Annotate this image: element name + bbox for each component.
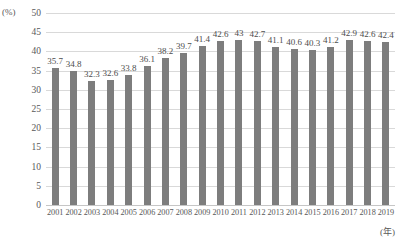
x-axis-tick-label: 2002 <box>64 208 82 217</box>
bar-slot: 42.9 <box>340 13 358 205</box>
bar-value-label: 34.8 <box>66 59 82 69</box>
y-axis-tick-label: 5 <box>36 181 41 191</box>
y-axis-tick-label: 35 <box>32 66 42 76</box>
x-axis-tick-label: 2014 <box>285 208 303 217</box>
bar-slot: 32.3 <box>83 13 101 205</box>
bar-slot: 41.4 <box>193 13 211 205</box>
bar-slot: 33.8 <box>120 13 138 205</box>
bar-slot: 42.6 <box>211 13 229 205</box>
bar-slot: 41.1 <box>267 13 285 205</box>
x-axis-tick-label: 2004 <box>101 208 119 217</box>
bar-series: 35.734.832.332.633.836.138.239.741.442.6… <box>46 13 395 205</box>
bar: 41.2 <box>327 47 334 205</box>
bar: 35.7 <box>52 68 59 205</box>
x-axis-tick-label: 2010 <box>211 208 229 217</box>
bar: 40.6 <box>291 49 298 205</box>
x-axis-tick-label: 2015 <box>303 208 321 217</box>
bar-slot: 38.2 <box>156 13 174 205</box>
x-axis-tick-label: 2009 <box>193 208 211 217</box>
bar-value-label: 40.6 <box>286 37 302 47</box>
bar-value-label: 32.3 <box>84 69 100 79</box>
y-axis-tick-label: 0 <box>36 200 41 210</box>
bar: 36.1 <box>144 66 151 205</box>
bar: 39.7 <box>180 53 187 205</box>
y-axis-tick-label: 25 <box>32 104 42 114</box>
x-axis-tick-label: 2003 <box>83 208 101 217</box>
bar-value-label: 41.4 <box>194 34 210 44</box>
bar-slot: 43 <box>230 13 248 205</box>
bar: 40.3 <box>309 50 316 205</box>
bar: 42.4 <box>382 42 389 205</box>
bar: 42.9 <box>346 40 353 205</box>
bar-value-label: 43 <box>234 28 243 38</box>
bar: 43 <box>235 40 242 205</box>
x-axis-tick-label: 2017 <box>340 208 358 217</box>
bar-slot: 40.6 <box>285 13 303 205</box>
bar: 41.4 <box>199 46 206 205</box>
bar-value-label: 42.6 <box>213 29 229 39</box>
y-axis-tick-label: 20 <box>32 123 42 133</box>
bar-value-label: 39.7 <box>176 41 192 51</box>
bar-value-label: 40.3 <box>305 38 321 48</box>
bar-value-label: 32.6 <box>102 68 118 78</box>
bar-value-label: 42.9 <box>341 28 357 38</box>
x-axis-tick-label: 2019 <box>377 208 395 217</box>
x-axis-tick-label: 2012 <box>248 208 266 217</box>
bar-slot: 42.4 <box>377 13 395 205</box>
bar: 32.3 <box>88 81 95 205</box>
bar-slot: 42.6 <box>358 13 376 205</box>
y-axis-tick-label: 50 <box>32 8 42 18</box>
x-axis-tick-label: 2005 <box>120 208 138 217</box>
bar: 32.6 <box>107 80 114 205</box>
plot-area: 50454035302520151050 35.734.832.332.633.… <box>46 13 395 205</box>
bar: 42.6 <box>217 41 224 205</box>
bar-slot: 32.6 <box>101 13 119 205</box>
y-axis-tick-label: 30 <box>32 85 42 95</box>
y-axis-tick-label: 40 <box>32 46 42 56</box>
y-axis-tick-label: 15 <box>32 142 42 152</box>
bar: 34.8 <box>70 71 77 205</box>
bar: 42.7 <box>254 41 261 205</box>
bar-value-label: 36.1 <box>139 54 155 64</box>
y-axis-unit-label: (%) <box>2 7 16 17</box>
x-axis-tick-label: 2007 <box>156 208 174 217</box>
x-axis-tick-label: 2008 <box>175 208 193 217</box>
x-axis-tick-label: 2018 <box>358 208 376 217</box>
bar-value-label: 41.2 <box>323 35 339 45</box>
bar: 42.6 <box>364 41 371 205</box>
y-axis-tick-label: 45 <box>32 27 42 37</box>
bar-value-label: 42.6 <box>360 29 376 39</box>
bar-value-label: 33.8 <box>121 63 137 73</box>
bar-chart: (%) 50454035302520151050 35.734.832.332.… <box>0 0 401 240</box>
bar-value-label: 42.4 <box>378 30 394 40</box>
x-axis-tick-labels: 2001200220032004200520062007200820092010… <box>46 208 395 217</box>
bar: 38.2 <box>162 58 169 205</box>
bar-value-label: 35.7 <box>47 56 63 66</box>
bar: 41.1 <box>272 47 279 205</box>
bar-value-label: 38.2 <box>158 46 174 56</box>
x-axis-unit-label: (年) <box>380 225 395 238</box>
bar-slot: 36.1 <box>138 13 156 205</box>
bar-slot: 39.7 <box>175 13 193 205</box>
bar-slot: 42.7 <box>248 13 266 205</box>
y-axis-tick-label: 10 <box>32 162 42 172</box>
bar: 33.8 <box>125 75 132 205</box>
bar-slot: 34.8 <box>64 13 82 205</box>
x-axis-tick-label: 2001 <box>46 208 64 217</box>
x-axis-tick-label: 2011 <box>230 208 248 217</box>
bar-slot: 40.3 <box>303 13 321 205</box>
x-axis-tick-label: 2006 <box>138 208 156 217</box>
x-axis-tick-label: 2016 <box>322 208 340 217</box>
x-axis-line: 0 <box>46 205 395 206</box>
x-axis-tick-label: 2013 <box>267 208 285 217</box>
bar-slot: 41.2 <box>322 13 340 205</box>
bar-slot: 35.7 <box>46 13 64 205</box>
bar-value-label: 42.7 <box>249 29 265 39</box>
bar-value-label: 41.1 <box>268 35 284 45</box>
